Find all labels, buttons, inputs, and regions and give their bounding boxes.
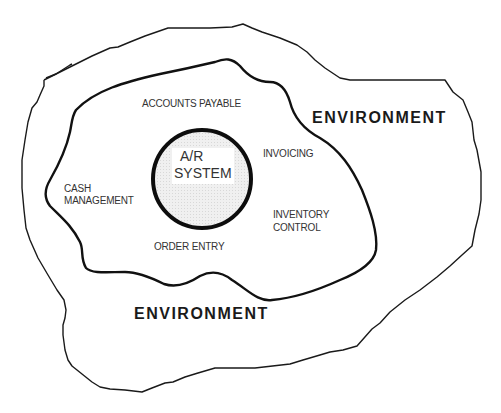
- ar-system-label-line2: SYSTEM: [174, 166, 232, 180]
- ar-system-label-line1: A/R: [180, 149, 203, 163]
- subsystem-accounts-payable: ACCOUNTS PAYABLE: [142, 98, 241, 110]
- subsystem-order-entry: ORDER ENTRY: [154, 241, 224, 253]
- subsystem-inventory-control-line1: INVENTORY: [273, 209, 329, 221]
- environment-boundary-gap-end: [46, 64, 72, 78]
- subsystem-cash-management-line2: MANAGEMENT: [64, 195, 134, 207]
- environment-boundary: [22, 24, 481, 392]
- subsystem-inventory-control-line2: CONTROL: [273, 222, 321, 234]
- environment-label-lower: ENVIRONMENT: [134, 305, 269, 323]
- environment-label-upper: ENVIRONMENT: [312, 109, 447, 127]
- subsystem-cash-management-line1: CASH: [64, 183, 91, 195]
- subsystem-invoicing: INVOICING: [263, 148, 313, 160]
